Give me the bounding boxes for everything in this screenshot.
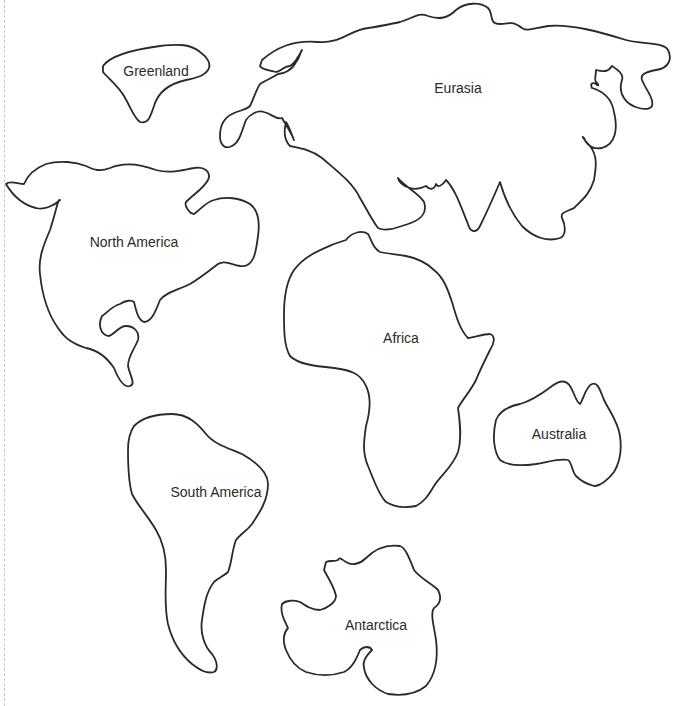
label-south-america: South America	[170, 484, 261, 500]
continent-antarctica[interactable]: Antarctica	[281, 546, 440, 695]
africa-outline	[284, 232, 494, 507]
eurasia-outline	[220, 4, 670, 240]
continent-north-america[interactable]: North America	[6, 162, 259, 386]
continent-eurasia[interactable]: Eurasia	[220, 4, 670, 240]
continent-africa[interactable]: Africa	[284, 232, 494, 507]
greenland-outline	[103, 45, 209, 122]
label-africa: Africa	[383, 330, 419, 346]
north-america-outline	[6, 162, 259, 386]
continent-greenland[interactable]: Greenland	[103, 45, 209, 122]
label-antarctica: Antarctica	[345, 617, 407, 633]
label-eurasia: Eurasia	[434, 80, 482, 96]
continent-south-america[interactable]: South America	[128, 414, 268, 673]
continent-australia[interactable]: Australia	[494, 382, 621, 487]
label-australia: Australia	[532, 426, 587, 442]
label-greenland: Greenland	[123, 63, 188, 79]
label-north-america: North America	[90, 234, 179, 250]
south-america-outline	[128, 414, 268, 673]
world-continents-map: Greenland Eurasia North America Africa A…	[0, 0, 676, 706]
